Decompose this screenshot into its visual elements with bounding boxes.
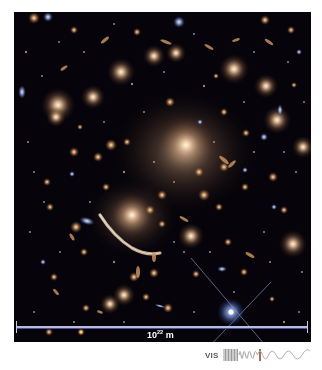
scale-bar [16, 326, 308, 328]
spectrum-legend: VIS [205, 347, 311, 363]
scale-label: 1022 m [147, 329, 174, 340]
band-label: VIS [205, 351, 219, 360]
scale-bar-left-tick [16, 321, 17, 333]
scale-label-unit: m [166, 330, 174, 340]
wavelength-wave-icon [223, 347, 311, 363]
astronomy-image: 1022 m [14, 12, 311, 342]
scale-label-exponent: 22 [157, 329, 163, 335]
galaxy-cluster-field [14, 12, 311, 342]
scale-label-base: 10 [147, 330, 157, 340]
scale-bar-right-tick [307, 321, 308, 333]
